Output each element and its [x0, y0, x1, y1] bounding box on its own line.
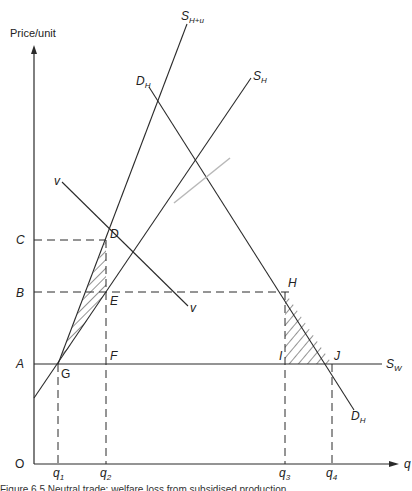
point-h-label: H [288, 276, 297, 290]
q4-label: q4 [326, 466, 338, 482]
q1-label: q1 [53, 466, 64, 482]
price-label-c: C [16, 233, 25, 247]
svg-text:SH+u: SH+u [181, 9, 204, 25]
y-axis-label: Price/unit [10, 27, 56, 39]
s-h-plus-u-label: SH+u [181, 9, 204, 25]
d-h-top-label: DH [136, 74, 151, 90]
origin-label: O [15, 457, 24, 471]
figure-caption: Figure 6.5 Neutral trade: welfare loss f… [0, 484, 412, 491]
svg-text:SW: SW [386, 357, 403, 373]
x-axis-label: q [404, 457, 411, 471]
point-d-label: D [110, 227, 119, 241]
svg-text:SH: SH [253, 69, 267, 85]
supply-curve-h [34, 78, 251, 398]
x-axis [34, 461, 399, 467]
supply-curve-h-plus-u [58, 24, 187, 364]
d-h-bottom-label: DH [351, 409, 366, 425]
v-bottom-label: v [190, 301, 197, 315]
q2-label: q2 [100, 466, 112, 482]
s-w-label: SW [386, 357, 403, 373]
welfare-diagram: Price/unit q O C B A q1 q2 q3 q4 D E F G… [0, 0, 412, 491]
point-f-label: F [110, 349, 118, 363]
s-h-label: SH [253, 69, 267, 85]
point-i-label: I [279, 349, 283, 363]
stray-mark [174, 158, 230, 203]
v-top-label: v [54, 174, 61, 188]
svg-text:DH: DH [351, 409, 366, 425]
deadweight-loss-consumption [285, 292, 332, 364]
svg-text:DH: DH [136, 74, 151, 90]
svg-text:q2: q2 [100, 466, 112, 482]
point-e-label: E [110, 294, 119, 308]
svg-text:q1: q1 [53, 466, 64, 482]
y-axis [31, 45, 37, 464]
v-line [62, 182, 188, 306]
svg-text:q3: q3 [279, 466, 291, 482]
svg-text:q4: q4 [326, 466, 338, 482]
point-j-label: J [333, 349, 341, 363]
price-label-b: B [16, 286, 24, 300]
q3-label: q3 [279, 466, 291, 482]
demand-curve-h [149, 87, 354, 410]
point-g-label: G [61, 367, 70, 381]
price-label-a: A [15, 357, 24, 371]
